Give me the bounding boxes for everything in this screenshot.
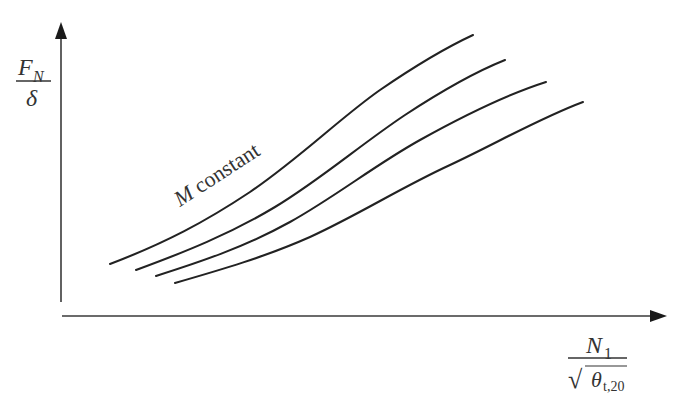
curve-family bbox=[110, 35, 583, 283]
x-axis-arrow-icon bbox=[650, 310, 667, 322]
x-label-numerator: N bbox=[585, 332, 604, 358]
x-axis-label: N 1 √ θ t,20 bbox=[568, 332, 627, 394]
x-label-radical: √ bbox=[568, 365, 583, 394]
y-label-numerator: F bbox=[17, 54, 33, 80]
y-axis-arrow-icon bbox=[55, 22, 67, 39]
y-label-numerator-sub: N bbox=[32, 68, 45, 85]
curve-annotation: M constant bbox=[168, 137, 264, 211]
x-label-denominator-sub: t,20 bbox=[603, 379, 624, 394]
curve-4 bbox=[175, 102, 583, 283]
curve-1 bbox=[110, 35, 473, 264]
y-axis-label: F N δ bbox=[16, 54, 51, 111]
x-label-numerator-sub: 1 bbox=[604, 345, 612, 362]
chart: M constant F N δ N 1 √ θ t,20 bbox=[0, 0, 692, 420]
y-label-denominator: δ bbox=[26, 85, 38, 111]
x-label-denominator: θ bbox=[591, 367, 602, 392]
